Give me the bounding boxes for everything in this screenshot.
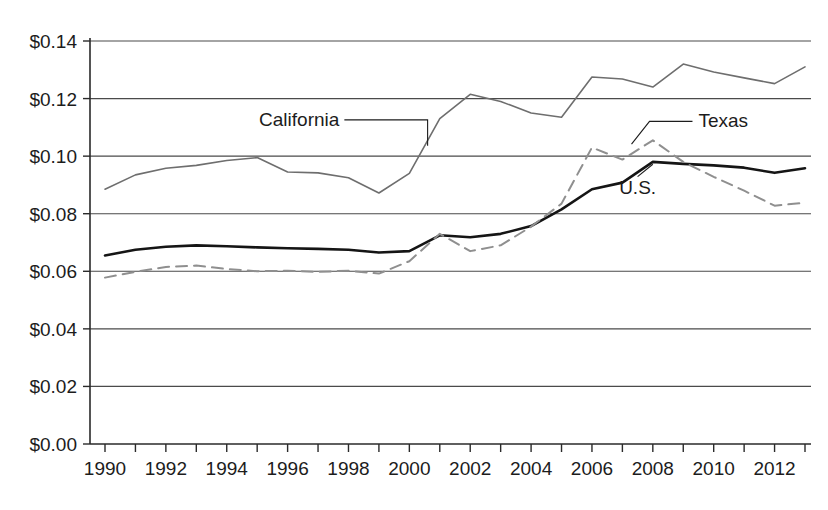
- series-label-u-s: U.S.: [619, 177, 656, 198]
- x-axis-tick-label: 1998: [327, 458, 369, 479]
- grid-lines: [90, 41, 811, 386]
- y-axis-tick-label: $0.04: [29, 319, 77, 340]
- series-annotations: CaliforniaTexasU.S.: [259, 109, 748, 198]
- y-axis-ticks: [83, 41, 90, 444]
- x-axis-tick-label: 2012: [753, 458, 795, 479]
- series-label-california: California: [259, 109, 340, 130]
- leader-line-texas: [632, 121, 693, 144]
- data-series: [105, 64, 805, 278]
- y-axis-tick-label: $0.08: [29, 204, 77, 225]
- x-axis-ticks: [105, 444, 805, 452]
- x-axis-tick-label: 2004: [510, 458, 553, 479]
- x-axis-tick-label: 2002: [449, 458, 491, 479]
- x-axis-tick-label: 2000: [388, 458, 430, 479]
- series-line-texas: [105, 140, 805, 277]
- x-axis-tick-label: 1992: [145, 458, 187, 479]
- y-axis-tick-label: $0.06: [29, 261, 77, 282]
- chart-container: $0.00$0.02$0.04$0.06$0.08$0.10$0.12$0.14…: [0, 0, 828, 510]
- x-axis-tick-label: 2008: [632, 458, 674, 479]
- y-axis-tick-label: $0.12: [29, 89, 77, 110]
- leader-line-california: [344, 120, 427, 146]
- line-chart: $0.00$0.02$0.04$0.06$0.08$0.10$0.12$0.14…: [0, 0, 828, 510]
- x-axis-tick-label: 1996: [266, 458, 308, 479]
- series-label-texas: Texas: [698, 110, 748, 131]
- x-axis-tick-labels: 1990199219941996199820002002200420062008…: [84, 458, 796, 479]
- y-axis-tick-labels: $0.00$0.02$0.04$0.06$0.08$0.10$0.12$0.14: [29, 31, 77, 455]
- y-axis-tick-label: $0.00: [29, 434, 77, 455]
- y-axis-tick-label: $0.10: [29, 146, 77, 167]
- x-axis-tick-label: 1994: [206, 458, 249, 479]
- x-axis-tick-label: 2006: [571, 458, 613, 479]
- x-axis-tick-label: 2010: [693, 458, 735, 479]
- y-axis-tick-label: $0.02: [29, 376, 77, 397]
- y-axis-tick-label: $0.14: [29, 31, 77, 52]
- x-axis-tick-label: 1990: [84, 458, 126, 479]
